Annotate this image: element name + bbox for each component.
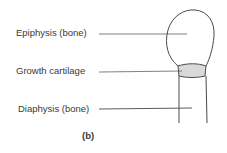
- diaphysis-label: Diaphysis (bone): [18, 103, 89, 114]
- panel-label: (b): [82, 130, 94, 141]
- epiphysis-shape: [166, 10, 214, 66]
- bone-diagram: [0, 0, 227, 153]
- diaphysis-right-edge: [206, 76, 207, 123]
- growth-cartilage-shape: [178, 64, 206, 78]
- diaphysis-leader-line: [99, 108, 192, 109]
- epiphysis-label: Epiphysis (bone): [16, 27, 87, 38]
- growth-cartilage-leader-line: [99, 71, 182, 72]
- growth-cartilage-label: Growth cartilage: [16, 65, 85, 76]
